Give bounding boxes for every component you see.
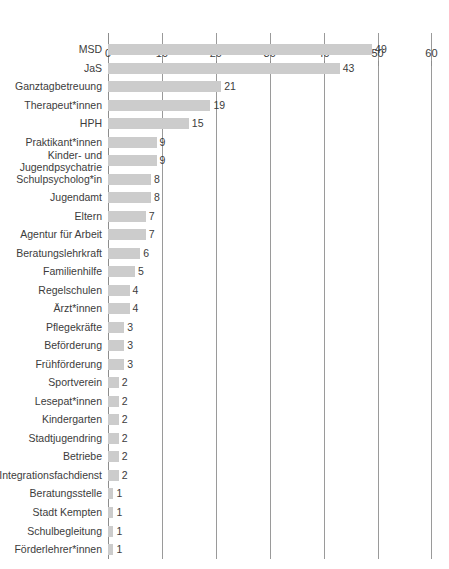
bar-row: Stadtjugendring2 [108,430,449,449]
bar [108,322,124,333]
bar-row: Integrationsfachdienst2 [108,467,449,486]
bar-row: Frühförderung3 [108,356,449,375]
bar [108,451,119,462]
bar-value-label: 2 [122,432,128,444]
bar-row: Schulbegleitung1 [108,523,449,542]
category-label: Jugendamt [0,192,102,204]
bar [108,396,119,407]
bar [108,63,340,74]
bar-value-label: 9 [160,154,166,166]
bar [108,155,157,166]
bar [108,470,119,481]
bar [108,137,157,148]
bar-row: JaS43 [108,60,449,79]
bar-value-label: 3 [127,321,133,333]
bar-value-label: 2 [122,395,128,407]
category-label: Lesepat*innen [0,396,102,408]
bar-row: Ärzt*innen4 [108,300,449,319]
category-label: Integrationsfachdienst [0,470,102,482]
bar-value-label: 6 [143,247,149,259]
bar [108,266,135,277]
category-label: HPH [0,118,102,130]
category-label: Beförderung [0,340,102,352]
bar-row: HPH15 [108,115,449,134]
bar-row: Lesepat*innen2 [108,393,449,412]
bar-row: Beförderung3 [108,337,449,356]
bar-row: Beratungslehrkraft6 [108,245,449,264]
bar [108,377,119,388]
bar-value-label: 49 [375,43,387,55]
bar-value-label: 3 [127,339,133,351]
bar-value-label: 1 [116,525,122,537]
bar-row: Therapeut*innen19 [108,97,449,116]
bar [108,488,113,499]
category-label: Stadt Kempten [0,507,102,519]
bar-row: Jugendamt8 [108,189,449,208]
bar-row: Pflegekräfte3 [108,319,449,338]
bar-value-label: 4 [133,302,139,314]
category-label: Förderlehrer*innen [0,544,102,556]
bar-row: Eltern7 [108,208,449,227]
bar [108,526,113,537]
bar-row: Schulpsycholog*in8 [108,171,449,190]
category-label: Kindergarten [0,414,102,426]
category-label: Therapeut*innen [0,100,102,112]
bar [108,285,130,296]
bar [108,81,221,92]
bar [108,340,124,351]
bar [108,118,189,129]
category-label: Kinder- und Jugendpsychatrie [0,150,102,173]
bar [108,174,151,185]
bar-value-label: 3 [127,358,133,370]
bar [108,192,151,203]
bar-value-label: 2 [122,376,128,388]
bar-row: Kinder- und Jugendpsychatrie9 [108,152,449,171]
bar-value-label: 43 [343,62,355,74]
bar-value-label: 8 [154,191,160,203]
bar-row: Beratungsstelle1 [108,485,449,504]
bar [108,544,113,555]
bar-row: Sportverein2 [108,374,449,393]
bar-value-label: 1 [116,487,122,499]
bar-row: Familienhilfe5 [108,263,449,282]
bar-value-label: 1 [116,543,122,555]
bar [108,303,130,314]
category-label: Praktikant*innen [0,137,102,149]
category-label: Stadtjugendring [0,433,102,445]
bar [108,507,113,518]
category-label: Schulpsycholog*in [0,174,102,186]
bar-value-label: 8 [154,173,160,185]
bar-value-label: 2 [122,413,128,425]
category-label: Betriebe [0,451,102,463]
category-label: Frühförderung [0,359,102,371]
category-label: Familienhilfe [0,266,102,278]
bar-value-label: 5 [138,265,144,277]
bar [108,44,372,55]
bar-row: Stadt Kempten1 [108,504,449,523]
bar-chart: 010203040506070 MSD49JaS43Ganztagbetreuu… [0,0,449,569]
category-label: Sportverein [0,377,102,389]
category-label: Ganztagbetreuung [0,81,102,93]
category-label: Beratungslehrkraft [0,248,102,260]
bar-row: Ganztagbetreuung21 [108,78,449,97]
bar-row: Kindergarten2 [108,411,449,430]
category-label: Schulbegleitung [0,526,102,538]
bar-value-label: 7 [149,210,155,222]
bar [108,414,119,425]
bar-value-label: 15 [192,117,204,129]
bar [108,211,146,222]
bar [108,100,210,111]
category-label: Eltern [0,211,102,223]
category-label: JaS [0,63,102,75]
bar-row: MSD49 [108,41,449,60]
bar-value-label: 19 [213,99,225,111]
bar-value-label: 9 [160,136,166,148]
bar [108,229,146,240]
category-label: Agentur für Arbeit [0,229,102,241]
bar-value-label: 7 [149,228,155,240]
category-label: MSD [0,44,102,56]
category-label: Beratungsstelle [0,488,102,500]
bar-row: Agentur für Arbeit7 [108,226,449,245]
bar [108,433,119,444]
bar-value-label: 4 [133,284,139,296]
